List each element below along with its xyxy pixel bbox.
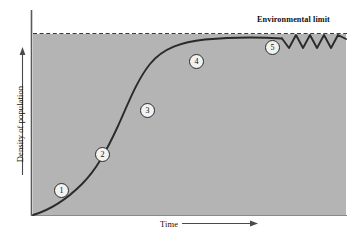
plateau-phase-marker[interactable]: 5 (265, 40, 280, 55)
lag-phase-marker[interactable]: 1 (54, 183, 69, 198)
inflection-phase-marker[interactable]: 3 (140, 103, 155, 118)
arrow-right-icon (182, 221, 258, 227)
y-axis-title: Density of population (15, 86, 25, 162)
chart-canvas (0, 0, 353, 240)
deceleration-phase-marker[interactable]: 4 (189, 54, 204, 69)
y-axis-title-wrapper: Density of population (9, 64, 23, 184)
x-axis-title: Time (160, 219, 178, 229)
acceleration-phase-marker[interactable]: 2 (95, 147, 110, 162)
population-growth-figure: Environmental limit Density of populatio… (0, 0, 353, 240)
environmental-limit-label: Environmental limit (257, 15, 330, 24)
